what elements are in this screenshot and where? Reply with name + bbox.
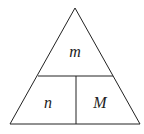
triangle-outline [10, 8, 140, 124]
bottom-left-label: n [44, 94, 52, 111]
formula-triangle: m n M [0, 0, 144, 134]
bottom-right-label: M [92, 94, 108, 111]
top-label: m [69, 43, 81, 60]
